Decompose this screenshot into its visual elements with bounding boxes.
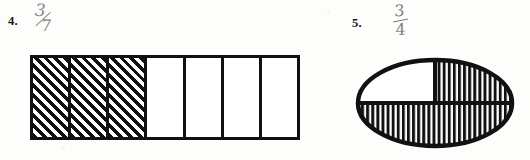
bar-cell-empty <box>224 58 262 137</box>
problem-4-number: 4. <box>8 14 18 29</box>
bar-cell-empty <box>262 58 297 137</box>
bar-cell-shaded <box>71 58 109 137</box>
problem-5-handwritten-answer: 3 4 <box>391 2 409 38</box>
ellipse-model-figure <box>356 58 514 148</box>
bar-cell-shaded <box>109 58 147 137</box>
bar-cell-empty <box>186 58 224 137</box>
bar-cell-shaded <box>33 58 71 137</box>
fraction-stack: 3 7 <box>26 0 56 37</box>
worksheet-page: 4. 3 7 5. 3 4 <box>0 0 530 160</box>
problem-4-handwritten-answer: 3 7 <box>26 0 56 37</box>
fraction-denominator: 7 <box>37 18 55 34</box>
problem-5-number: 5. <box>352 16 362 31</box>
bar-model-figure <box>30 55 300 140</box>
fraction-stack: 3 4 <box>391 2 409 38</box>
fraction-denominator: 4 <box>393 21 409 38</box>
bar-cell-empty <box>147 58 185 137</box>
fraction-numerator: 3 <box>391 2 407 19</box>
